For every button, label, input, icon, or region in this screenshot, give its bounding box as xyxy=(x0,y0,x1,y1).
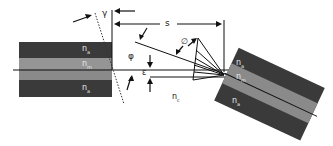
fiber-diagram: γ s φ ∅ ε nc na nm na na nm na xyxy=(0,0,333,146)
right-cladding-bottom-index: na xyxy=(232,97,240,107)
epsilon-label: ε xyxy=(142,69,146,77)
left-cladding-top-index: na xyxy=(82,45,90,55)
left-core-index: nm xyxy=(82,60,92,70)
phi-label: φ xyxy=(128,52,134,61)
theta-label: ∅ xyxy=(181,38,188,46)
right-core-index: nm xyxy=(236,73,246,83)
gap-index-label: nc xyxy=(172,93,180,103)
gamma-label: γ xyxy=(102,9,107,18)
s-label: s xyxy=(165,19,170,28)
ray-cone xyxy=(193,38,224,80)
right-fiber xyxy=(212,47,329,143)
right-cladding-top-index: na xyxy=(236,59,244,69)
left-cladding-bottom-index: na xyxy=(82,84,90,94)
